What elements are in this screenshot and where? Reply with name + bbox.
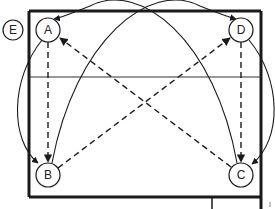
node-e: E (3, 20, 23, 40)
node-label-b: B (44, 168, 52, 182)
node-label-d: D (237, 23, 246, 37)
drill-diagram: E A D B C (0, 0, 275, 209)
node-a: A (36, 18, 60, 42)
node-d: D (229, 18, 253, 42)
run-c-to-a-arc (54, 0, 237, 163)
node-label-e: E (9, 23, 17, 37)
node-b: B (36, 163, 60, 187)
node-label-c: C (237, 168, 246, 182)
pass-b-to-d (58, 38, 230, 168)
dashed-passes (48, 38, 241, 168)
node-c: C (229, 163, 253, 187)
node-label-a: A (44, 23, 52, 37)
run-b-to-d-arc (52, 0, 236, 163)
